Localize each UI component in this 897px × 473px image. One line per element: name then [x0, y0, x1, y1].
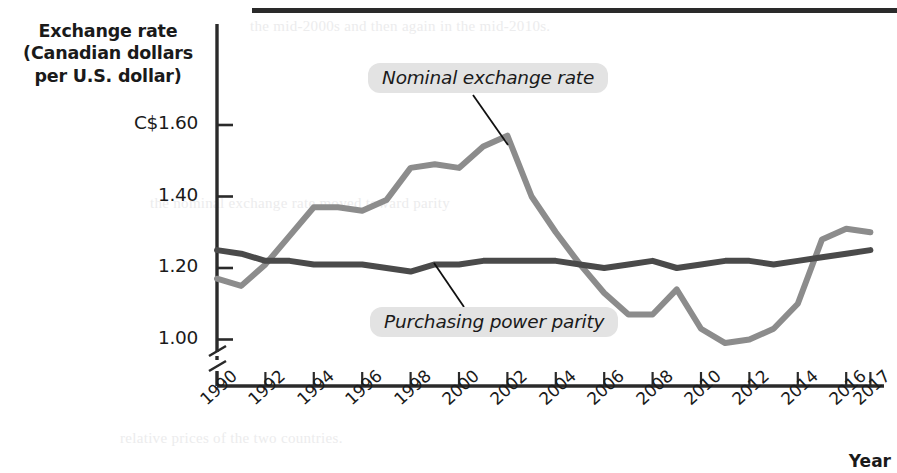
annotation-leader-lines [434, 95, 508, 307]
y-axis-tickmarks [217, 125, 233, 340]
nominal-exchange-rate-label: Nominal exchange rate [368, 63, 608, 93]
x-axis-title: Year [849, 451, 891, 471]
purchasing-power-parity-label: Purchasing power parity [370, 307, 618, 337]
exchange-rate-line-chart: Exchange rate (Canadian dollars per U.S.… [0, 0, 897, 473]
series-line-purchasing-power-parity [217, 250, 870, 271]
leader-line-ppp [434, 263, 464, 307]
leader-line-nominal [473, 95, 508, 145]
